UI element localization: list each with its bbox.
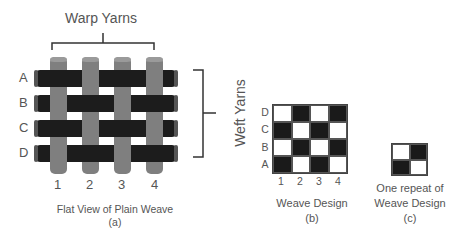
col-label-3: 3 <box>118 177 125 192</box>
row-label-d: D <box>19 145 28 160</box>
grid-cell-white <box>273 105 292 122</box>
warp-yarn-top <box>114 57 131 62</box>
weave-repeat-caption-line2: Weave Design <box>365 197 455 209</box>
weft-end <box>34 120 38 137</box>
grid-cell-white <box>392 144 410 160</box>
grid-cell-black <box>410 144 428 160</box>
grid-cell-white <box>329 122 348 139</box>
grid-cell-black <box>392 160 410 176</box>
warp-yarn-top <box>50 57 67 62</box>
grid-cell-white <box>292 122 311 139</box>
weft-end <box>34 95 38 112</box>
warp-over-crossing <box>50 94 67 113</box>
warp-yarn-top <box>82 57 99 62</box>
grid-col-label-4: 4 <box>333 175 343 187</box>
warp-yarn-top <box>146 57 163 62</box>
warp-over-crossing <box>82 69 99 88</box>
warp-over-crossing <box>114 94 131 113</box>
grid-cell-white <box>329 156 348 173</box>
grid-col-label-3: 3 <box>314 175 324 187</box>
grid-cell-white <box>410 160 428 176</box>
grid-cell-white <box>273 139 292 156</box>
grid-col-label-2: 2 <box>295 175 305 187</box>
warp-over-crossing <box>82 119 99 138</box>
warp-brace-icon <box>52 33 154 50</box>
weft-end <box>174 120 178 137</box>
row-label-b: B <box>19 95 28 110</box>
weave-design-grid <box>272 104 348 174</box>
grid-row-label-c: C <box>260 123 270 135</box>
weave-repeat-sub-label: (c) <box>365 212 455 224</box>
warp-over-crossing <box>146 69 163 88</box>
weft-yarns-title: Weft Yarns <box>232 78 248 148</box>
grid-cell-white <box>310 139 329 156</box>
col-label-1: 1 <box>54 177 61 192</box>
grid-cell-black <box>329 105 348 122</box>
grid-row-label-b: B <box>260 141 270 153</box>
grid-cell-black <box>310 156 329 173</box>
weft-brace-icon <box>193 70 216 157</box>
grid-cell-black <box>273 122 292 139</box>
grid-cell-black <box>292 139 311 156</box>
grid-row-label-d: D <box>260 106 270 118</box>
plain-weave-sub-label: (a) <box>40 216 190 228</box>
grid-cell-black <box>310 122 329 139</box>
grid-cell-white <box>310 105 329 122</box>
grid-cell-black <box>292 105 311 122</box>
weft-end <box>34 145 38 162</box>
weft-end <box>34 70 38 87</box>
grid-cell-black <box>273 156 292 173</box>
grid-cell-black <box>329 139 348 156</box>
row-label-c: C <box>19 120 28 135</box>
row-label-a: A <box>19 70 28 85</box>
col-label-4: 4 <box>151 177 158 192</box>
weave-design-sub-label: (b) <box>262 212 362 224</box>
weave-design-caption: Weave Design <box>262 197 362 209</box>
warp-over-crossing <box>146 119 163 138</box>
weave-repeat-grid <box>391 143 428 176</box>
col-label-2: 2 <box>86 177 93 192</box>
weft-end <box>174 95 178 112</box>
warp-over-crossing <box>50 144 67 163</box>
grid-col-label-1: 1 <box>276 175 286 187</box>
plain-weave-caption: Flat View of Plain Weave <box>40 203 190 215</box>
grid-row-label-a: A <box>260 158 270 170</box>
weave-repeat-caption-line1: One repeat of <box>365 182 455 194</box>
weft-end <box>174 70 178 87</box>
grid-cell-white <box>292 156 311 173</box>
warp-over-crossing <box>114 144 131 163</box>
weft-end <box>174 145 178 162</box>
